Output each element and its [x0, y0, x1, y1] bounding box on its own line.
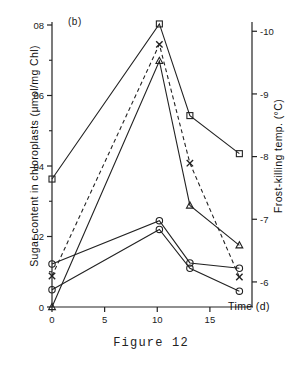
series-1: [49, 21, 242, 182]
marker-cross: [236, 274, 242, 280]
y-axis-title-right: Frost-killing temp. (°C): [272, 26, 284, 286]
x-tick-label: 0: [49, 314, 54, 325]
figure-container: 002040608-6-7-8-9-10051015 (b) Sugar con…: [0, 0, 302, 367]
series-line: [52, 24, 239, 179]
figure-caption: Figure 12: [0, 336, 302, 350]
series-2: [49, 41, 243, 280]
series-4: [49, 217, 243, 271]
series-5: [49, 226, 243, 294]
x-tick-label: 5: [102, 314, 107, 325]
series-line: [52, 61, 239, 307]
series-3: [49, 57, 243, 309]
x-axis-title: Time (d): [228, 300, 270, 312]
y-tick-label-right: -7: [260, 214, 268, 225]
series-layer: [49, 21, 243, 310]
marker-cross: [187, 160, 193, 166]
x-tick-label: 10: [152, 314, 163, 325]
y-tick-label-right: -8: [260, 151, 268, 162]
axes-layer: [47, 22, 257, 312]
y-axis-title-left: Sugar content in chloroplasts (μmol/mg C…: [28, 26, 40, 286]
x-tick-label: 15: [205, 314, 216, 325]
y-tick-label-left: 0: [39, 302, 44, 313]
marker-cross: [156, 41, 162, 47]
series-line: [52, 229, 239, 291]
panel-label: (b): [68, 16, 82, 27]
y-tick-label-right: -6: [260, 277, 268, 288]
y-tick-label-right: -9: [260, 89, 268, 100]
series-line: [52, 221, 239, 269]
